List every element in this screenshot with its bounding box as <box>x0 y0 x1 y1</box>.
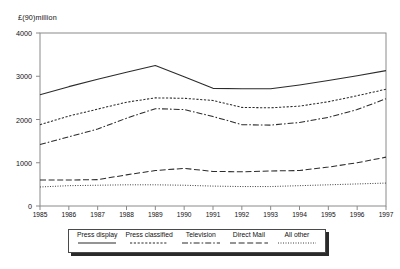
legend-item[interactable]: Television <box>181 232 221 245</box>
legend-line-swatch <box>277 241 317 245</box>
legend-item-label: Press classified <box>126 232 173 239</box>
series-line <box>40 183 386 187</box>
legend-line-swatch <box>129 241 169 245</box>
series-line <box>40 89 386 124</box>
legend-item-label: Television <box>186 232 216 239</box>
legend-line-swatch <box>229 241 269 245</box>
legend-item[interactable]: Press classified <box>126 232 173 245</box>
series-line <box>40 157 386 180</box>
legend-item[interactable]: Direct Mail <box>229 232 269 245</box>
legend-line-swatch <box>77 241 117 245</box>
series-lines <box>40 65 386 187</box>
chart-legend: Press displayPress classifiedTelevisionD… <box>68 229 326 253</box>
legend-item-label: Direct Mail <box>233 232 265 239</box>
legend-item[interactable]: All other <box>277 232 317 245</box>
legend-item[interactable]: Press display <box>77 232 117 245</box>
series-line <box>40 65 386 94</box>
y-axis-ticks <box>36 33 40 206</box>
legend-item-label: All other <box>284 232 309 239</box>
x-axis-ticks <box>40 206 386 210</box>
legend-item-label: Press display <box>77 232 117 239</box>
legend-line-swatch <box>181 241 221 245</box>
line-chart: £(90)million 01000200030004000 198519861… <box>0 0 400 269</box>
series-line <box>40 99 386 145</box>
